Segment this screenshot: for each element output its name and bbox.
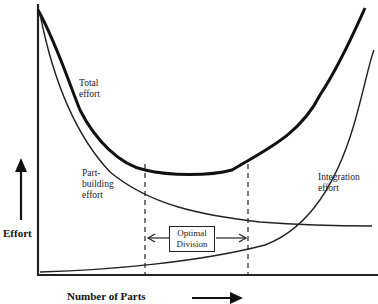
effort-chart bbox=[0, 0, 378, 304]
optimal-division-box: Optimal Division bbox=[169, 226, 215, 252]
y-axis-label: Effort bbox=[3, 228, 32, 239]
integration-effort-label: Integration effort bbox=[318, 172, 360, 194]
total-effort-label: Total effort bbox=[79, 78, 100, 100]
arrow-up-icon bbox=[15, 158, 27, 172]
x-axis-label: Number of Parts bbox=[67, 291, 146, 302]
part-building-effort-label: Part- building effort bbox=[82, 168, 114, 201]
arrow-right-icon bbox=[230, 292, 243, 304]
